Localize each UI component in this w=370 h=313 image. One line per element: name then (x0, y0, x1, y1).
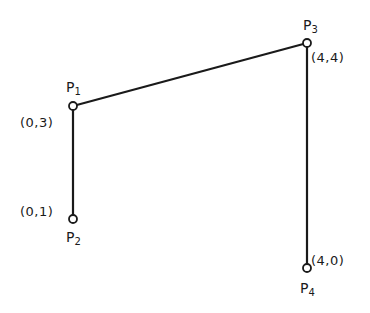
point-marker-p4 (303, 264, 311, 272)
coord-label-p1: (0,3) (20, 116, 53, 129)
point-marker-p2 (69, 215, 77, 223)
point-label-p3: P3 (303, 18, 318, 37)
coord-label-p4: (4,0) (311, 254, 344, 267)
point-label-p4: P4 (300, 281, 315, 300)
coord-label-p2: (0,1) (20, 205, 53, 218)
point-marker-p3 (303, 39, 311, 47)
point-label-p2: P2 (66, 230, 81, 249)
segment-p1-p3 (73, 43, 307, 106)
segments (73, 43, 307, 268)
coord-label-p3: (4,4) (311, 51, 344, 64)
point-label-p1: P1 (66, 80, 81, 99)
point-marker-p1 (69, 102, 77, 110)
path-diagram: P1 (0,3) (0,1) P2 P3 (4,4) (4,0) P4 (0, 0, 370, 313)
